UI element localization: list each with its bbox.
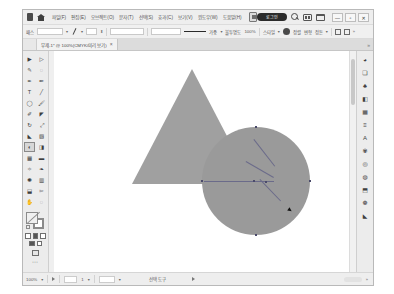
menu-view[interactable]: 보기(V) — [178, 14, 193, 20]
maximize-button[interactable]: ▫ — [345, 13, 356, 22]
minimize-button[interactable]: — — [332, 13, 343, 22]
blend-tool[interactable]: ❧ — [36, 164, 47, 174]
vertical-scrollbar[interactable] — [349, 51, 356, 272]
panel-transform-icon[interactable]: ⬒ — [360, 185, 371, 194]
chevron-down-icon[interactable]: ▾ — [220, 29, 222, 34]
ellipse-tool[interactable]: ◯ — [24, 98, 35, 108]
panel-properties-icon[interactable]: ◕ — [360, 55, 371, 64]
shape-builder-tool[interactable]: ◐ — [24, 142, 35, 152]
gradient-mode-button[interactable] — [33, 233, 39, 239]
menu-effect[interactable]: 효과(C) — [158, 14, 173, 20]
anchor-point[interactable] — [255, 234, 257, 236]
zoom-level-value[interactable]: 100% — [26, 277, 37, 282]
panel-libraries-icon[interactable]: ♣ — [360, 81, 371, 90]
curvature-tool[interactable]: ✏ — [36, 76, 47, 86]
tab-overflow-icon[interactable]: » — [367, 42, 373, 48]
panel-stroke-icon[interactable]: ≡ — [360, 120, 371, 129]
panel-swatches-icon[interactable]: ▦ — [360, 107, 371, 116]
direct-selection-tool[interactable]: ▷ — [36, 54, 47, 64]
screen-mode-button[interactable] — [32, 250, 39, 256]
anchor-point[interactable] — [265, 181, 267, 183]
arrange-documents-icon[interactable] — [316, 14, 325, 21]
lasso-tool[interactable]: ◌ — [36, 65, 47, 75]
scale-tool[interactable]: ⤢ — [36, 120, 47, 130]
zoom-tool[interactable]: ◌ — [36, 197, 47, 207]
symbol-sprayer-tool[interactable]: ✺ — [24, 175, 35, 185]
line-segment-tool[interactable]: ╱ — [36, 87, 47, 97]
stroke-chevron-down-icon[interactable]: ▾ — [81, 29, 83, 34]
stroke-weight-input[interactable] — [86, 28, 97, 35]
stroke-weight-stepper[interactable]: ⬍ — [100, 29, 103, 34]
panel-gradient-icon[interactable]: ◣ — [360, 211, 371, 220]
status-display-select[interactable] — [99, 276, 115, 283]
status-overflow-icon[interactable]: » — [366, 277, 368, 282]
transform-label[interactable]: 변형 — [304, 29, 312, 35]
device-preview-icon[interactable] — [249, 12, 257, 22]
menu-edit[interactable]: 편집(E) — [71, 14, 86, 20]
hand-tool[interactable]: ✋ — [24, 197, 35, 207]
fill-chevron-down-icon[interactable]: ▾ — [66, 29, 68, 34]
close-icon[interactable]: × — [110, 42, 113, 47]
document-tab[interactable]: 무제-1* @ 100%(CMYK/미리 보기) × — [37, 39, 118, 50]
account-badge[interactable]: 로그인 — [257, 13, 287, 21]
artboard-tool[interactable]: ⬓ — [24, 186, 35, 196]
style-chevron-down-icon[interactable]: ▾ — [278, 29, 280, 34]
column-graph-tool[interactable]: ▥ — [36, 175, 47, 185]
search-icon[interactable] — [291, 13, 299, 21]
close-button[interactable]: ✕ — [358, 13, 369, 22]
eraser-tool[interactable]: ◤ — [36, 109, 47, 119]
paintbrush-tool[interactable]: 🖌 — [36, 98, 47, 108]
slice-tool[interactable]: ✂ — [36, 186, 47, 196]
panel-symbols-icon[interactable]: ◎ — [360, 159, 371, 168]
eyedropper-tool[interactable]: ✧ — [24, 164, 35, 174]
preferences-icon[interactable] — [344, 29, 350, 35]
rotate-tool[interactable]: ↻ — [24, 120, 35, 130]
style-label[interactable]: 스타일 — [263, 29, 275, 35]
default-fill-stroke-icon[interactable] — [26, 225, 30, 229]
selection-tool[interactable]: ▶ — [24, 54, 35, 64]
free-transform-tool[interactable]: ▧ — [36, 131, 47, 141]
none-mode-button[interactable] — [40, 233, 46, 239]
chevron-down-icon[interactable]: ▾ — [326, 29, 328, 34]
panel-color-icon[interactable]: ◧ — [360, 94, 371, 103]
menu-type[interactable]: 문자(T) — [119, 14, 133, 20]
opacity-value[interactable]: 100% — [244, 29, 255, 34]
stroke-swatch-icon[interactable] — [71, 28, 78, 35]
type-tool[interactable]: T — [24, 87, 35, 97]
status-chevron-down-icon[interactable]: ▾ — [119, 277, 121, 282]
horizontal-scrollbar-thumb[interactable] — [344, 277, 362, 282]
anchor-point[interactable] — [253, 180, 255, 182]
more-tools-icon[interactable]: ⋯ — [32, 260, 39, 264]
overflow-menu-icon[interactable]: » — [353, 29, 355, 34]
next-artboard-button[interactable] — [192, 277, 195, 281]
draw-normal-button[interactable] — [29, 241, 35, 247]
align-label[interactable]: 정렬 — [293, 29, 301, 35]
color-mode-button[interactable] — [25, 233, 31, 239]
panel-brushes-icon[interactable]: ✾ — [360, 146, 371, 155]
tab-strip-handle[interactable] — [23, 39, 37, 50]
width-tool[interactable]: ◣ — [24, 131, 35, 141]
perspective-grid-tool[interactable]: ◨ — [36, 142, 47, 152]
menu-file[interactable]: 파일(F) — [52, 14, 66, 20]
artboard[interactable] — [54, 51, 350, 272]
document-setup-icon[interactable] — [335, 29, 341, 35]
panel-pathfinder-icon[interactable]: ❁ — [360, 198, 371, 207]
workspace-switcher-icon[interactable] — [303, 14, 312, 21]
scrollbar-thumb[interactable] — [351, 59, 355, 105]
fill-swatch-icon[interactable] — [37, 28, 63, 35]
pen-tool[interactable]: ✒ — [24, 76, 35, 86]
home-icon[interactable] — [37, 13, 43, 22]
gradient-tool[interactable]: ▬ — [36, 153, 47, 163]
menu-select[interactable]: 선택(S) — [139, 14, 154, 20]
panel-layers-icon[interactable]: ❏ — [360, 68, 371, 77]
panel-appearance-icon[interactable]: ◍ — [360, 172, 371, 181]
variable-width-profile-select[interactable] — [110, 28, 144, 35]
artboard-chevron-down-icon[interactable]: ▾ — [88, 277, 90, 282]
opacity-mask-icon[interactable] — [283, 28, 290, 35]
menu-object[interactable]: 오브젝트(O) — [91, 14, 114, 20]
pencil-tool[interactable]: ✐ — [24, 109, 35, 119]
anchor-point[interactable] — [309, 180, 311, 182]
panel-character-icon[interactable]: A — [360, 133, 371, 142]
mesh-tool[interactable]: ▦ — [24, 153, 35, 163]
anchor-point[interactable] — [255, 126, 257, 128]
